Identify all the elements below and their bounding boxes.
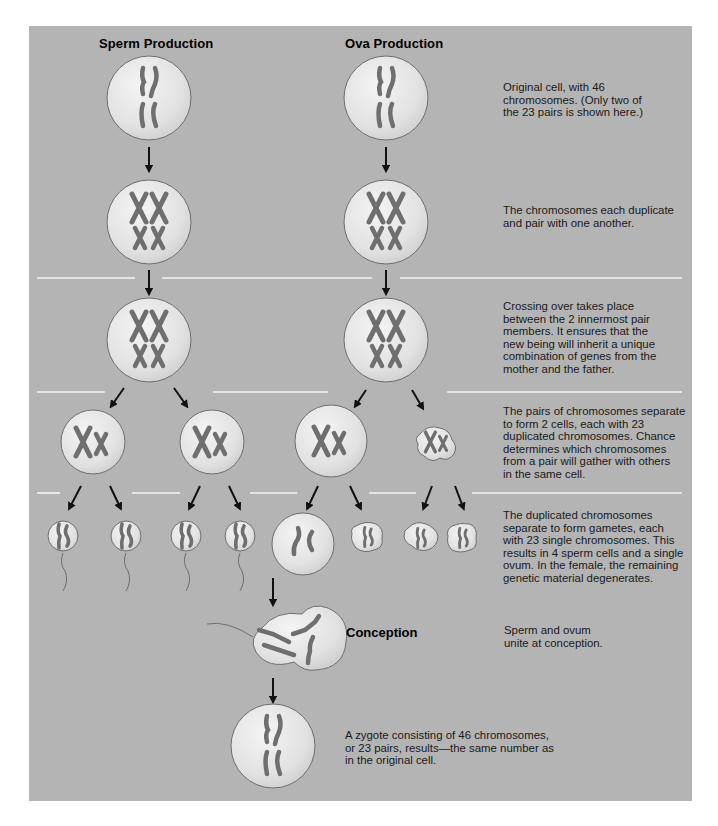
arrow-icon [424,486,432,507]
ovum [272,513,334,575]
conception-label: Conception [346,625,418,640]
arrow-icon [174,388,186,405]
zygote-cell [231,704,315,788]
sperm-cell-4 [225,521,255,591]
sperm-cell-1 [48,521,78,591]
polar-body-1 [352,522,383,551]
arrow-icon [412,390,422,407]
step-separate-pairs-description: The pairs of chromosomes separate to for… [503,405,685,481]
arrow-icon [229,486,239,507]
arrow-icon [112,388,124,405]
sperm-secondary-cell-2 [180,410,244,474]
sperm-duplicated-cell [107,180,191,264]
arrow-icon [455,486,463,507]
arrow-icon [190,486,200,507]
polar-body-2 [404,523,438,551]
ova-crossing-over-cell [344,298,428,382]
ova-original-cell [344,56,428,140]
ova-production-heading: Ova Production [345,36,443,51]
step-conception-description: Sperm and ovum unite at conception. [504,624,603,649]
sperm-production-heading: Sperm Production [99,36,213,51]
sperm-crossing-over-cell [107,298,191,382]
fertilized-egg [207,606,347,670]
polar-body [416,427,455,461]
step-original-description: Original cell, with 46 chromosomes. (Onl… [503,81,643,119]
sperm-cell-2 [111,521,141,591]
sperm-secondary-cell-1 [61,410,125,474]
arrow-icon [350,486,360,507]
step-zygote-description: A zygote consisting of 46 chromosomes, o… [345,729,554,767]
sperm-original-cell [107,56,191,140]
step-crossing-over-description: Crossing over takes place between the 2 … [503,300,656,376]
ova-secondary-cell [295,405,367,477]
arrow-icon [110,486,120,507]
step-duplicate-description: The chromosomes each duplicate and pair … [503,204,674,229]
step-gametes-description: The duplicated chromosomes separate to f… [503,509,683,585]
ova-duplicated-cell [344,180,428,264]
arrow-icon [308,486,318,507]
arrow-icon [70,486,81,507]
arrow-icon [356,390,366,405]
polar-body-3 [448,523,477,552]
sperm-cell-3 [171,521,201,591]
